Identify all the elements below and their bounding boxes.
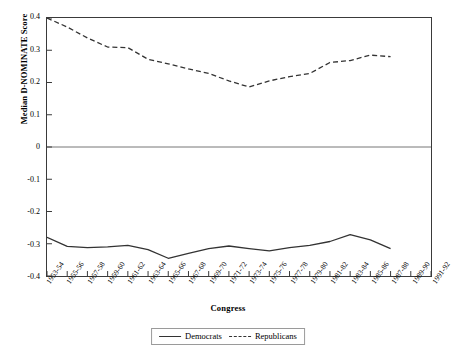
y-axis-tick-label: -0.4: [6, 273, 40, 281]
y-axis-tick-label: 0.1: [6, 111, 40, 119]
y-axis-tick-label: -0.2: [6, 208, 40, 216]
y-axis-tick-label: -0.3: [6, 241, 40, 249]
y-axis-tick-label: 0.3: [6, 46, 40, 54]
legend-label-democrats: Democrats: [185, 331, 222, 341]
x-axis-tick-label: 1991-92: [431, 261, 452, 286]
y-axis-tick-label: -0.1: [6, 176, 40, 184]
legend-label-republicans: Republicans: [255, 331, 297, 341]
series-line-democrats: [47, 235, 391, 259]
y-axis-tick-label: 0.4: [6, 13, 40, 21]
series-line-republicans: [47, 18, 391, 87]
line-solid-icon: [159, 333, 181, 340]
legend-item-democrats: Democrats: [159, 331, 222, 341]
plot-svg: [47, 18, 431, 276]
plot-area: [46, 17, 432, 277]
chart-legend: Democrats Republicans: [151, 328, 305, 345]
y-axis-tick-label: 0.2: [6, 78, 40, 86]
legend-item-republicans: Republicans: [229, 331, 297, 341]
y-axis-tick-label: 0: [6, 143, 40, 151]
x-axis-title: Congress: [0, 303, 456, 313]
line-dashed-icon: [229, 333, 251, 340]
y-axis-tick-labels: 0.40.30.20.10-0.1-0.2-0.3-0.4: [4, 0, 40, 351]
chart-container: Median D-NOMINATE Score 0.40.30.20.10-0.…: [0, 0, 456, 351]
